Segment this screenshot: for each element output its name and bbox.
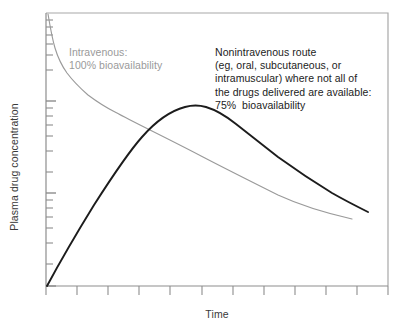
x-axis-label: Time [46, 308, 388, 320]
nonintravenous-annotation: Nonintravenous route (eg, oral, subcutan… [215, 46, 371, 112]
y-axis-label: Plasma drug concentration [4, 0, 24, 334]
intravenous-curve [48, 14, 352, 219]
y-axis-ticks [46, 20, 56, 286]
intravenous-annotation: Intravenous: 100% bioavailability [69, 46, 162, 72]
x-axis-ticks [46, 286, 388, 295]
figure-container: Plasma drug concentration Time Intraveno… [0, 0, 402, 334]
nonintravenous-curve [47, 106, 368, 287]
